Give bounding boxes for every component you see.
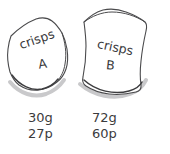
crisp-packet-b: [74, 8, 152, 102]
packet-b-outline: [83, 9, 147, 94]
packet-b-shape: [74, 8, 152, 102]
packet-a-weight: 30g: [28, 110, 53, 126]
packet-a-price: 27p: [28, 126, 53, 142]
packet-b-price: 60p: [92, 126, 117, 142]
packet-b-weight: 72g: [92, 110, 117, 126]
crisp-packet-comparison-figure: crisps A crisps B 30g 27p 72g 60p: [0, 0, 170, 154]
crisp-packet-a: [6, 16, 72, 100]
packet-a-caption: 30g 27p: [28, 110, 53, 142]
packet-b-caption: 72g 60p: [92, 110, 117, 142]
packet-a-shape: [6, 16, 72, 100]
